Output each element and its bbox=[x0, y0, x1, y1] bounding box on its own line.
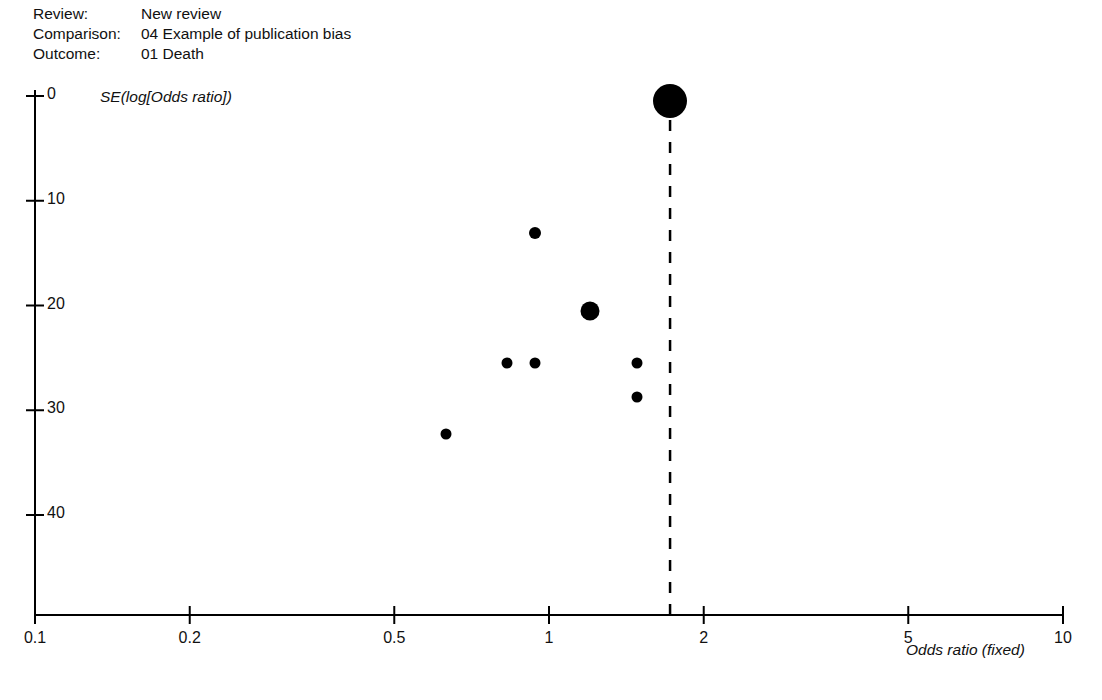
data-point bbox=[653, 84, 687, 118]
x-tick-label: 0.5 bbox=[383, 629, 405, 647]
x-tick-label: 5 bbox=[904, 629, 913, 647]
y-tick-label: 30 bbox=[47, 399, 65, 417]
data-point bbox=[631, 358, 642, 369]
funnel-plot: SE(log[Odds ratio]) Odds ratio (fixed) 0… bbox=[0, 0, 1102, 700]
x-tick-label: 2 bbox=[699, 629, 708, 647]
x-tick-label: 1 bbox=[545, 629, 554, 647]
x-tick-label: 0.2 bbox=[179, 629, 201, 647]
y-axis-title: SE(log[Odds ratio]) bbox=[100, 88, 232, 106]
x-tick-label: 0.1 bbox=[24, 629, 46, 647]
y-tick-label: 0 bbox=[47, 85, 56, 103]
data-point bbox=[529, 227, 541, 239]
data-point bbox=[440, 429, 451, 440]
y-tick-label: 40 bbox=[47, 504, 65, 522]
data-point bbox=[631, 391, 642, 402]
x-tick-label: 10 bbox=[1054, 629, 1072, 647]
y-tick-label: 10 bbox=[47, 190, 65, 208]
y-tick-label: 20 bbox=[47, 295, 65, 313]
data-point bbox=[580, 301, 599, 320]
data-point bbox=[530, 358, 541, 369]
data-point bbox=[502, 358, 513, 369]
x-axis-title: Odds ratio (fixed) bbox=[906, 641, 1025, 659]
